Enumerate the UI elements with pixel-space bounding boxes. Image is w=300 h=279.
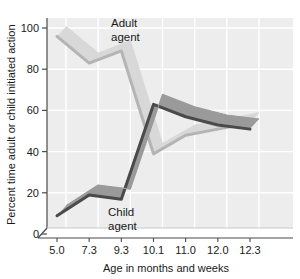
y-tick-label: 20 [27, 187, 39, 199]
annotation-child-agent-line2: agent [108, 220, 138, 232]
x-axis-title: Age in months and weeks [103, 262, 229, 274]
chart-container: 020406080100 5.07.39.310.111.012.012.3 P… [0, 0, 300, 279]
y-tick-label: 40 [27, 146, 39, 158]
y-tick-label: 80 [27, 63, 39, 75]
x-tick-label: 7.3 [82, 244, 97, 256]
x-tick-label: 9.3 [114, 244, 129, 256]
y-tick-label: 0 [33, 228, 39, 240]
x-tick-label: 11.0 [175, 244, 196, 256]
x-tick-label: 12.0 [207, 244, 228, 256]
x-tick-label: 12.3 [239, 244, 260, 256]
x-axis-ticks: 5.07.39.310.111.012.012.3 [49, 238, 260, 256]
y-axis-title: Percent time adult or child initiated ac… [5, 24, 17, 225]
annotation-child-agent-line1: Child [108, 206, 134, 218]
chart-svg: 020406080100 5.07.39.310.111.012.012.3 P… [0, 0, 300, 279]
annotation-adult-agent-line1: Adult [111, 17, 138, 29]
y-tick-label: 60 [27, 104, 39, 116]
x-tick-label: 10.1 [143, 244, 164, 256]
y-axis-ticks: 020406080100 [21, 22, 47, 240]
x-tick-label: 5.0 [49, 244, 64, 256]
axis-floor [38, 228, 293, 238]
annotation-adult-agent-line2: agent [111, 31, 141, 43]
y-tick-label: 100 [21, 22, 39, 34]
